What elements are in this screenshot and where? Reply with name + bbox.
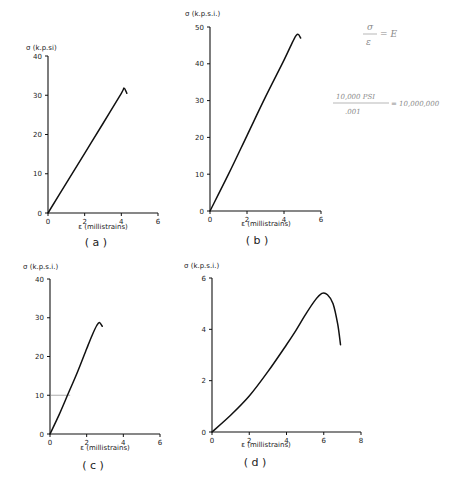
x-tick-label: 0: [210, 437, 214, 445]
y-tick-label: 40: [35, 276, 44, 284]
y-tick-label: 50: [195, 24, 204, 32]
y-tick-label: 0: [40, 431, 44, 439]
stress-strain-curve: [210, 34, 301, 211]
y-tick-label: 10: [195, 171, 204, 179]
y-tick-label: 20: [33, 131, 42, 139]
note-bottom-numerator: 10,000 PSI: [336, 93, 375, 101]
y-tick-label: 40: [33, 53, 42, 61]
panel-label: ( d ): [244, 456, 267, 469]
y-tick-label: 10: [33, 170, 42, 178]
y-tick-label: 2: [202, 377, 206, 385]
chart-d: 024680246σ (k.p.s.i.)ε (millistrains)( d…: [184, 262, 363, 469]
note-top-rhs: = E: [380, 29, 397, 39]
note-bottom-rhs: = 10,000,000: [391, 100, 440, 108]
stress-strain-curve: [50, 322, 102, 434]
panel-label: ( b ): [246, 234, 269, 247]
x-axis-title: ε (millistrains): [241, 441, 291, 449]
y-tick-label: 10: [35, 392, 44, 400]
y-tick-label: 30: [35, 314, 44, 322]
y-axis-title: σ (k.p.si): [26, 44, 57, 52]
y-tick-label: 0: [202, 429, 206, 437]
y-tick-label: 30: [195, 97, 204, 105]
y-tick-label: 20: [35, 353, 44, 361]
chart-b: 024601020304050σ (k.p.s.i.)ε (millistrai…: [185, 10, 324, 247]
x-tick-label: 6: [158, 439, 163, 447]
y-tick-label: 4: [202, 326, 207, 334]
handwritten-note-formula-bottom: 10,000 PSI .001 = 10,000,000: [333, 93, 440, 116]
handwritten-note-formula-top: σ ε = E: [363, 22, 397, 47]
note-bottom-denominator: .001: [345, 108, 361, 116]
x-axis-title: ε (millistrains): [80, 444, 130, 452]
x-tick-label: 0: [48, 439, 52, 447]
y-tick-label: 0: [38, 210, 42, 218]
x-axis-title: ε (millistrains): [78, 223, 128, 231]
y-axis-title: σ (k.p.s.i.): [184, 262, 219, 270]
figure-canvas: 0246010203040σ (k.p.si)ε (millistrains)(…: [0, 0, 451, 483]
panel-label: ( a ): [85, 236, 107, 249]
x-tick-label: 0: [46, 218, 50, 226]
y-tick-label: 0: [200, 208, 204, 216]
y-axis-title: σ (k.p.s.i.): [23, 263, 58, 271]
y-tick-label: 40: [195, 60, 204, 68]
panel-label: ( c ): [82, 459, 104, 472]
y-axis-title: σ (k.p.s.i.): [185, 10, 220, 18]
x-tick-label: 6: [322, 437, 327, 445]
y-tick-label: 6: [202, 275, 207, 283]
stress-strain-curve: [48, 88, 127, 213]
note-top-numerator: σ: [367, 22, 374, 32]
chart-c: 0246010203040σ (k.p.s.i.)ε (millistrains…: [23, 263, 163, 472]
note-top-denominator: ε: [366, 37, 371, 47]
y-tick-label: 20: [195, 134, 204, 142]
x-tick-label: 0: [208, 216, 212, 224]
x-tick-label: 6: [319, 216, 324, 224]
stress-strain-curve: [212, 293, 341, 432]
x-tick-label: 6: [156, 218, 161, 226]
x-axis-title: ε (millistrains): [241, 220, 291, 228]
x-tick-label: 8: [359, 437, 363, 445]
y-tick-label: 30: [33, 92, 42, 100]
chart-a: 0246010203040σ (k.p.si)ε (millistrains)(…: [26, 44, 161, 249]
